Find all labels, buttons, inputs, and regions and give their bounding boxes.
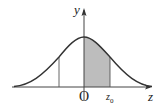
- shaded-area: [84, 37, 110, 87]
- y-axis-label: y: [74, 3, 80, 16]
- origin-label: O: [79, 90, 89, 104]
- z-axis-label: z: [148, 90, 153, 103]
- bell-curve: [14, 37, 152, 87]
- z0-label-subscript: 0: [110, 97, 114, 105]
- z0-label: z0: [106, 92, 113, 105]
